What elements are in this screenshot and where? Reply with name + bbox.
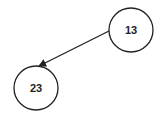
node-label: 23	[30, 82, 42, 94]
node-23: 23	[14, 66, 58, 110]
node-13: 13	[109, 8, 153, 52]
edge-13-to-23	[39, 31, 109, 66]
node-label: 13	[125, 24, 137, 36]
arrow-icon	[39, 31, 109, 66]
tree-diagram: 13 23	[0, 0, 160, 118]
